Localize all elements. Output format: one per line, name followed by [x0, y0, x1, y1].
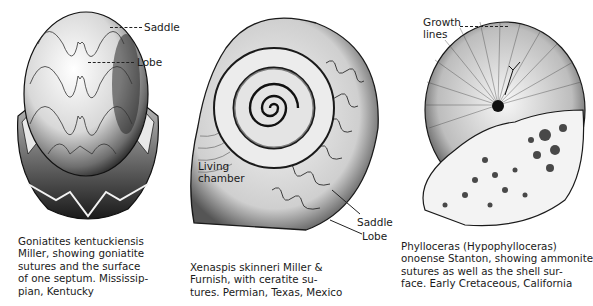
phylloceras-drawing — [405, 10, 591, 235]
caption-line: pian, Kentucky — [18, 285, 148, 297]
growth-lines-leader-line — [460, 26, 508, 27]
goniatites-illustration — [8, 4, 168, 226]
goniatites-caption: Goniatites kentuckiensis Miller, showing… — [18, 235, 148, 297]
xenaspis-caption: Xenaspis skinneri Miller & Furnish, with… — [190, 261, 342, 298]
xenaspis-lobe-label: Lobe — [362, 230, 387, 242]
goniatites-saddle-label: Saddle — [144, 21, 180, 33]
phylloceras-caption: Phylloceras (Hypophylloceras) onoense St… — [401, 240, 593, 290]
goniatites-lobe-label: Lobe — [137, 56, 162, 68]
phylloceras-illustration — [405, 10, 591, 235]
xenaspis-living-chamber-label: Living chamber — [198, 160, 245, 184]
lobe-leader-line — [88, 62, 134, 63]
caption-line: Goniatites kentuckiensis — [18, 235, 148, 247]
caption-line: tures. Permian, Texas, Mexico — [190, 286, 342, 298]
caption-line: Furnish, with ceratite su- — [190, 273, 342, 285]
caption-line: Phylloceras (Hypophylloceras) — [401, 240, 593, 252]
xenaspis-saddle-label: Saddle — [357, 216, 393, 228]
caption-line: Xenaspis skinneri Miller & — [190, 261, 342, 273]
caption-line: sutures as well as the shell sur- — [401, 265, 593, 277]
caption-line: face. Early Cretaceous, California — [401, 277, 593, 289]
caption-line: onoense Stanton, showing ammonite — [401, 252, 593, 264]
saddle-leader-line — [110, 27, 142, 28]
phylloceras-growth-lines-label: Growth lines — [423, 16, 461, 40]
caption-line: Miller, showing goniatite — [18, 247, 148, 259]
goniatites-drawing — [8, 4, 168, 226]
caption-line: sutures and the surface — [18, 260, 148, 272]
caption-line: of one septum. Mississip- — [18, 272, 148, 284]
